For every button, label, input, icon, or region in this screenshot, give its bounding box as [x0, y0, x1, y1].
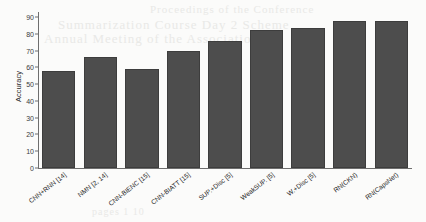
- bar-series: [38, 12, 412, 168]
- y-tick-label-0: 0: [30, 165, 34, 172]
- y-tick-label-80: 80: [26, 30, 34, 37]
- y-tick-label-70: 70: [26, 47, 34, 54]
- y-tick-label-20: 20: [26, 131, 34, 138]
- bar: [333, 21, 366, 168]
- bar: [375, 21, 408, 168]
- bar: [125, 69, 158, 168]
- y-tick-label-60: 60: [26, 64, 34, 71]
- y-axis-tick-labels: 0102030405060708090: [12, 0, 34, 222]
- bar: [42, 71, 75, 168]
- y-tick-label-90: 90: [26, 14, 34, 21]
- bar: [167, 51, 200, 168]
- y-tick-label-30: 30: [26, 114, 34, 121]
- bar: [250, 30, 283, 168]
- chart-screenshot: Proceedings of the Conference Summarizat…: [0, 0, 426, 222]
- y-tick-label-50: 50: [26, 81, 34, 88]
- y-tick-label-40: 40: [26, 97, 34, 104]
- x-axis-line: [38, 168, 412, 169]
- bar: [84, 57, 117, 168]
- bar: [291, 28, 324, 168]
- bar: [208, 41, 241, 168]
- y-tick-label-10: 10: [26, 148, 34, 155]
